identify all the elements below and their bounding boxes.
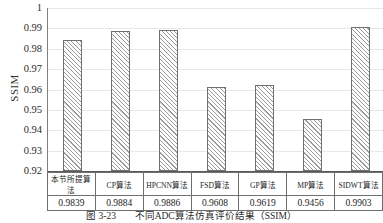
- bar: [207, 87, 226, 171]
- chart-figure: SSIM 10.990.980.970.960.950.940.930.92 本…: [0, 0, 383, 223]
- y-tick-label: 0.92: [8, 166, 42, 177]
- bar: [351, 27, 370, 171]
- bar-slot: [144, 8, 192, 171]
- table-cell-name: GP算法: [239, 173, 287, 196]
- table-row-names: 本节所提算法CP算法HPCNN算法FSD算法GP算法MP算法SIDWT算法: [48, 173, 383, 196]
- bar: [303, 119, 322, 171]
- bar-slot: [96, 8, 144, 171]
- y-tick-label: 0.99: [8, 23, 42, 34]
- bar: [255, 85, 274, 171]
- data-table: 本节所提算法CP算法HPCNN算法FSD算法GP算法MP算法SIDWT算法 0.…: [47, 172, 383, 211]
- bar-slot: [48, 8, 96, 171]
- bar-slot: [192, 8, 240, 171]
- y-tick-label: 0.94: [8, 125, 42, 136]
- bar-slot: [240, 8, 288, 171]
- y-tick-label: 1: [8, 3, 42, 14]
- caption-number: 图 3-23: [86, 211, 116, 221]
- y-tick-label: 0.98: [8, 44, 42, 55]
- table-cell-name: FSD算法: [191, 173, 239, 196]
- y-tick-label: 0.95: [8, 105, 42, 116]
- figure-caption: 图 3-23 不同ADC算法仿真评价结果（SSIM）: [0, 208, 383, 222]
- bar: [159, 30, 178, 171]
- y-tick-label: 0.97: [8, 64, 42, 75]
- bar-series: [48, 8, 383, 171]
- table-cell-name: SIDWT算法: [335, 173, 383, 196]
- bar: [63, 40, 82, 171]
- bar-slot: [288, 8, 336, 171]
- plot-area: 10.990.980.970.960.950.940.930.92: [47, 8, 383, 172]
- table-cell-name: HPCNN算法: [143, 173, 191, 196]
- caption-text: 不同ADC算法仿真评价结果（SSIM）: [135, 211, 297, 221]
- table-cell-name: MP算法: [287, 173, 335, 196]
- bar: [111, 31, 130, 171]
- table-cell-name: 本节所提算法: [48, 173, 96, 196]
- y-tick-label: 0.96: [8, 85, 42, 96]
- y-tick-label: 0.93: [8, 146, 42, 157]
- table-cell-name: CP算法: [95, 173, 143, 196]
- bar-slot: [336, 8, 383, 171]
